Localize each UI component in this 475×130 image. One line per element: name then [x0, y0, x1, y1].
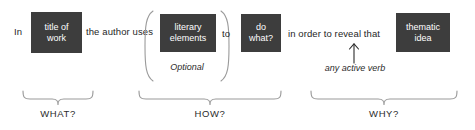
- slot-title-of-work[interactable]: title of work: [31, 12, 82, 53]
- lead-text: In: [14, 27, 22, 37]
- brace-why: [310, 90, 458, 106]
- connector-to: to: [222, 29, 230, 39]
- category-label-what: WHAT?: [22, 108, 94, 119]
- slot-thematic-idea-line1: thematic: [406, 22, 440, 33]
- slot-literary-elements-line2: elements: [170, 33, 207, 44]
- slot-do-what[interactable]: do what?: [241, 14, 281, 52]
- slot-do-what-line1: do: [256, 22, 266, 33]
- connector-in-order-to-reveal-that: in order to reveal that: [288, 29, 380, 39]
- category-label-why: WHY?: [310, 108, 458, 119]
- slot-literary-elements-line1: literary: [174, 22, 201, 33]
- category-label-how: HOW?: [138, 108, 282, 119]
- diagram-canvas: In title of work the author uses literar…: [0, 0, 475, 130]
- optional-annotation: Optional: [143, 62, 231, 72]
- slot-title-of-work-line1: title of: [44, 22, 68, 33]
- active-verb-arrow-icon: [346, 42, 362, 64]
- slot-thematic-idea[interactable]: thematic idea: [396, 13, 450, 52]
- active-verb-annotation: any active verb: [300, 63, 410, 73]
- slot-do-what-line2: what?: [249, 33, 273, 44]
- slot-title-of-work-line2: work: [47, 33, 66, 44]
- slot-thematic-idea-line2: idea: [414, 33, 431, 44]
- brace-what: [22, 90, 94, 106]
- slot-literary-elements[interactable]: literary elements: [160, 14, 216, 52]
- brace-how: [138, 90, 282, 106]
